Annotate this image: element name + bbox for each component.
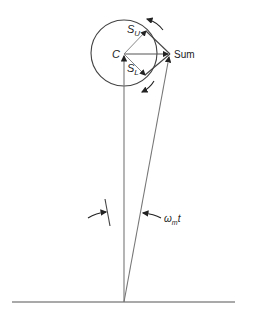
sum-vector [124,57,169,302]
label-su: SU [127,23,140,38]
label-sl: SL [127,62,139,77]
phasor-diagram: C SU SL Sum ωmt [0,0,253,315]
upper-parallel-line [146,31,170,54]
upper-rotation-arrow [147,19,163,30]
left-angle-arrow [88,212,106,218]
label-c: C [112,48,120,60]
lower-rotation-arrow [142,81,154,92]
label-omega-m-t: ωmt [164,213,182,226]
label-sum: Sum [174,49,195,60]
right-angle-arrow [143,213,161,218]
